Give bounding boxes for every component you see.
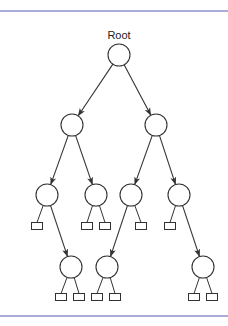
arrow-B-F xyxy=(159,135,175,184)
tree-diagram xyxy=(0,0,228,326)
leaf-box xyxy=(136,223,147,230)
leaf-edge-C-l xyxy=(37,205,43,222)
leaf-box xyxy=(74,294,85,301)
arrow-F-I xyxy=(182,205,199,256)
tree-node xyxy=(61,114,83,136)
leaf-box xyxy=(110,294,121,301)
leaf-edge-H-r xyxy=(110,278,115,294)
leaf-edge-D-l xyxy=(87,205,93,222)
arrow-E-H xyxy=(111,205,128,256)
arrow-C-G xyxy=(50,205,67,256)
leaf-edge-G-r xyxy=(74,278,79,294)
arrow-A-D xyxy=(76,135,93,184)
tree-node xyxy=(145,114,167,136)
arrow-B-E xyxy=(135,135,152,184)
leaf-edge-F-l xyxy=(170,205,176,222)
leaf-box xyxy=(92,294,103,301)
leaf-edge-I-r xyxy=(207,277,212,293)
arrow-root-A xyxy=(78,64,112,115)
tree-node xyxy=(168,184,190,206)
leaf-box xyxy=(100,223,111,230)
leaf-edge-H-l xyxy=(97,277,103,293)
leaf-box xyxy=(32,223,43,230)
leaf-edge-G-l xyxy=(61,277,67,293)
leaf-box xyxy=(207,294,218,301)
leaf-box xyxy=(165,223,176,230)
arrow-root-B xyxy=(124,65,150,115)
leaf-edge-I-l xyxy=(194,277,199,293)
tree-node xyxy=(192,256,214,278)
leaf-box xyxy=(82,223,93,230)
tree-node xyxy=(60,256,82,278)
tree-node xyxy=(85,184,107,206)
tree-node xyxy=(96,256,118,278)
tree-node xyxy=(36,184,58,206)
leaf-edge-E-r xyxy=(135,205,141,222)
leaves xyxy=(32,223,218,301)
leaf-box xyxy=(189,294,200,301)
root-node xyxy=(108,44,130,66)
arrow-A-C xyxy=(51,135,68,184)
leaf-box xyxy=(56,294,67,301)
tree-node xyxy=(120,184,142,206)
leaf-edge-D-r xyxy=(99,205,105,222)
